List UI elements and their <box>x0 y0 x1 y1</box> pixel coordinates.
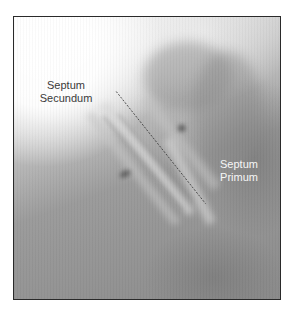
label-septum-secundum: Septum Secundum <box>30 79 102 105</box>
label-septum-secundum-line2: Secundum <box>30 92 102 105</box>
label-septum-primum: Septum Primum <box>209 158 269 184</box>
label-septum-primum-line2: Primum <box>209 171 269 184</box>
label-septum-secundum-line1: Septum <box>30 79 102 92</box>
label-septum-primum-line1: Septum <box>209 158 269 171</box>
